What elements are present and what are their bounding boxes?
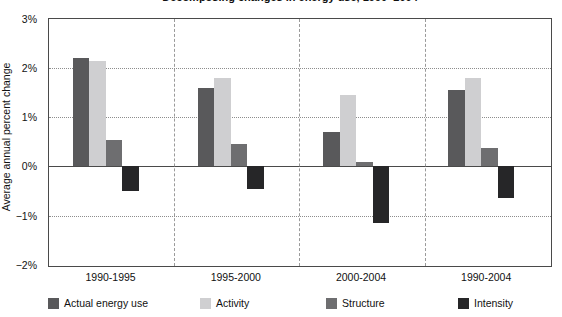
- bar-intensity-1990-1995: [122, 166, 139, 191]
- bar-activity-1995-2000: [214, 78, 231, 166]
- y-axis-tick-label: −1%: [0, 210, 37, 222]
- x-axis-tick-label: 2000-2004: [336, 271, 386, 283]
- y-axis-title: Average annual percent change: [0, 12, 14, 262]
- legend-swatch-icon: [200, 298, 211, 309]
- x-axis-tick-label: 1990-2004: [461, 271, 511, 283]
- legend-item-structure[interactable]: Structure: [326, 297, 385, 309]
- bar-actual-energy-use-1990-2004: [448, 90, 465, 166]
- bar-actual-energy-use-1995-2000: [198, 88, 215, 167]
- legend-label: Activity: [216, 297, 249, 309]
- chart-legend: Actual energy useActivityStructureIntens…: [48, 294, 552, 312]
- group-separator: [174, 19, 175, 266]
- bar-intensity-1995-2000: [247, 166, 264, 188]
- y-axis-tick-label: −2%: [0, 259, 37, 271]
- legend-swatch-icon: [326, 298, 337, 309]
- legend-swatch-icon: [458, 298, 469, 309]
- legend-item-activity[interactable]: Activity: [200, 297, 249, 309]
- bar-structure-1990-1995: [106, 140, 123, 166]
- y-axis-tick-label: 3%: [0, 13, 37, 25]
- y-axis-tick-label: 1%: [0, 111, 37, 123]
- legend-item-intensity[interactable]: Intensity: [458, 297, 513, 309]
- legend-label: Intensity: [474, 297, 513, 309]
- bar-structure-1995-2000: [231, 144, 248, 166]
- group-separator: [425, 19, 426, 266]
- bar-actual-energy-use-2000-2004: [323, 132, 340, 166]
- chart-figure: Decomposing changes in energy use, 1990–…: [0, 0, 562, 317]
- bar-activity-1990-1995: [89, 61, 106, 167]
- legend-item-actual-energy-use[interactable]: Actual energy use: [48, 297, 148, 309]
- y-axis-tick-label: 2%: [0, 62, 37, 74]
- group-separator: [299, 19, 300, 266]
- bar-intensity-1990-2004: [498, 166, 515, 198]
- bar-activity-1990-2004: [465, 78, 482, 166]
- bar-activity-2000-2004: [340, 95, 357, 166]
- bar-intensity-2000-2004: [373, 166, 390, 223]
- bar-structure-1990-2004: [481, 148, 498, 166]
- legend-label: Structure: [342, 297, 385, 309]
- x-axis-tick-label: 1995-2000: [211, 271, 261, 283]
- y-axis-tick-label: 0%: [0, 160, 37, 172]
- plot-area: −2%−1%0%1%2%3%: [48, 18, 552, 267]
- bar-structure-2000-2004: [356, 162, 373, 167]
- x-axis-tick-label: 1990-1995: [85, 271, 135, 283]
- bar-actual-energy-use-1990-1995: [73, 58, 90, 166]
- legend-label: Actual energy use: [64, 297, 148, 309]
- legend-swatch-icon: [48, 298, 59, 309]
- chart-title: Decomposing changes in energy use, 1990–…: [120, 0, 460, 3]
